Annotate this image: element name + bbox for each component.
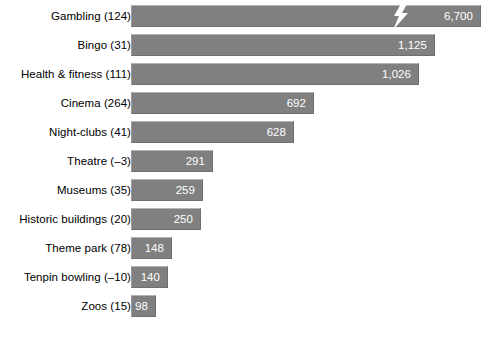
bar-value-label: 1,026 bbox=[382, 63, 418, 85]
bar-container: 148 bbox=[131, 237, 172, 259]
bar-value-label: 1,125 bbox=[398, 34, 434, 56]
chart-row: Tenpin bowling (–10) 140 bbox=[0, 266, 482, 288]
bar-container: 140 bbox=[131, 266, 168, 288]
bar-value-label: 98 bbox=[135, 295, 155, 317]
bar-value-label: 259 bbox=[176, 179, 202, 201]
bar[interactable]: 148 bbox=[131, 237, 172, 259]
bar[interactable]: 250 bbox=[131, 208, 201, 230]
bar-value-label: 291 bbox=[186, 150, 212, 172]
chart-row: Theme park (78) 148 bbox=[0, 237, 482, 259]
bar-container: 1,125 bbox=[131, 34, 435, 56]
bar-chart: Gambling (124) 6,700 Bingo (31) 1,125 He… bbox=[0, 0, 482, 338]
category-label: Night-clubs (41) bbox=[0, 121, 131, 143]
bar-container: 250 bbox=[131, 208, 201, 230]
category-label: Gambling (124) bbox=[0, 5, 131, 27]
bar-value-label: 628 bbox=[267, 121, 293, 143]
chart-row: Zoos (15) 98 bbox=[0, 295, 482, 317]
chart-row: Theatre (–3) 291 bbox=[0, 150, 482, 172]
category-label: Health & fitness (111) bbox=[0, 63, 131, 85]
bar-value-label: 140 bbox=[141, 266, 167, 288]
bar[interactable]: 1,026 bbox=[131, 63, 419, 85]
category-label: Tenpin bowling (–10) bbox=[0, 266, 131, 288]
bar-value-label: 692 bbox=[287, 92, 313, 114]
bar[interactable]: 1,125 bbox=[131, 34, 435, 56]
category-label: Bingo (31) bbox=[0, 34, 131, 56]
bar-container: 692 bbox=[131, 92, 314, 114]
bar[interactable]: 692 bbox=[131, 92, 314, 114]
bar-value-label: 250 bbox=[174, 208, 200, 230]
bar[interactable]: 140 bbox=[131, 266, 168, 288]
chart-row: Night-clubs (41) 628 bbox=[0, 121, 482, 143]
chart-row: Health & fitness (111) 1,026 bbox=[0, 63, 482, 85]
category-label: Theme park (78) bbox=[0, 237, 131, 259]
bar[interactable]: 6,700 bbox=[131, 5, 481, 27]
chart-row: Museums (35) 259 bbox=[0, 179, 482, 201]
bar-container: 628 bbox=[131, 121, 294, 143]
bar[interactable]: 291 bbox=[131, 150, 213, 172]
bar[interactable]: 98 bbox=[131, 295, 156, 317]
chart-row: Bingo (31) 1,125 bbox=[0, 34, 482, 56]
bar-value-label: 6,700 bbox=[444, 5, 480, 27]
bar-container: 259 bbox=[131, 179, 203, 201]
bar-container: 6,700 bbox=[131, 5, 481, 27]
bar[interactable]: 259 bbox=[131, 179, 203, 201]
category-label: Historic buildings (20) bbox=[0, 208, 131, 230]
chart-row: Historic buildings (20) 250 bbox=[0, 208, 482, 230]
bar-container: 98 bbox=[131, 295, 156, 317]
bar-value-label: 148 bbox=[145, 237, 171, 259]
category-label: Cinema (264) bbox=[0, 92, 131, 114]
chart-row: Gambling (124) 6,700 bbox=[0, 5, 482, 27]
bar[interactable]: 628 bbox=[131, 121, 294, 143]
category-label: Museums (35) bbox=[0, 179, 131, 201]
category-label: Theatre (–3) bbox=[0, 150, 131, 172]
category-label: Zoos (15) bbox=[0, 295, 131, 317]
bar-container: 291 bbox=[131, 150, 213, 172]
chart-row: Cinema (264) 692 bbox=[0, 92, 482, 114]
bar-container: 1,026 bbox=[131, 63, 419, 85]
